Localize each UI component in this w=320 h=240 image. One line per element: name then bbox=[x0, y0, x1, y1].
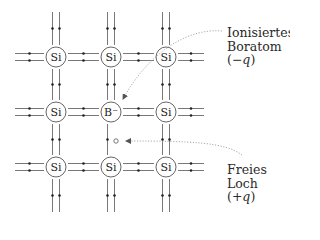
hole-annotation-line1: Freies bbox=[227, 163, 267, 177]
hole-charge: (+q) bbox=[227, 190, 267, 204]
hole-annotation: Freies Loch (+q) bbox=[227, 163, 267, 204]
electron-dot bbox=[51, 138, 54, 141]
boron-annotation-line1: Ionisiertes bbox=[227, 26, 290, 40]
electron-dot bbox=[58, 138, 61, 141]
silicon-atom: Si bbox=[156, 157, 176, 177]
electron-dot bbox=[137, 114, 140, 117]
hole-annotation-line2: Loch bbox=[227, 177, 267, 191]
electron-dot bbox=[137, 169, 140, 172]
atom-label: Si bbox=[105, 161, 117, 174]
electron-dot bbox=[190, 162, 193, 165]
electron-dot bbox=[168, 138, 171, 141]
electron-dot bbox=[28, 59, 31, 62]
electron-dot bbox=[82, 169, 85, 172]
silicon-atom: Si bbox=[46, 47, 66, 67]
electron-dot bbox=[82, 52, 85, 55]
electron-dot bbox=[28, 169, 31, 172]
electron-dot bbox=[161, 83, 164, 86]
electron-dot bbox=[28, 52, 31, 55]
electron-dot bbox=[58, 27, 61, 30]
atom-label: B⁻ bbox=[104, 106, 118, 119]
silicon-atom: Si bbox=[101, 157, 121, 177]
atom-label: Si bbox=[160, 161, 172, 174]
electron-dot bbox=[51, 27, 54, 30]
electron-dot bbox=[106, 83, 109, 86]
boron-atom: B⁻ bbox=[101, 102, 121, 122]
electron-dot bbox=[168, 27, 171, 30]
atom-label: Si bbox=[50, 161, 62, 174]
electron-dot bbox=[190, 59, 193, 62]
atom-label: Si bbox=[105, 51, 117, 64]
electron-dot bbox=[82, 114, 85, 117]
electron-dot bbox=[106, 27, 109, 30]
electron-dot bbox=[190, 114, 193, 117]
electron-dot bbox=[190, 107, 193, 110]
atom-label: Si bbox=[160, 106, 172, 119]
electron-dot bbox=[28, 114, 31, 117]
atoms: SiSiSiSiB⁻SiSiSiSi bbox=[46, 47, 176, 177]
electron-dot bbox=[168, 83, 171, 86]
electron-dot bbox=[168, 194, 171, 197]
electron-dot bbox=[82, 107, 85, 110]
silicon-atom: Si bbox=[46, 157, 66, 177]
electron-dot bbox=[106, 138, 109, 141]
electron-dot bbox=[106, 194, 109, 197]
electron-dot bbox=[82, 59, 85, 62]
electron-dot bbox=[161, 27, 164, 30]
electron-dot bbox=[51, 194, 54, 197]
silicon-atom: Si bbox=[156, 47, 176, 67]
electron-dot bbox=[190, 169, 193, 172]
electron-dot bbox=[137, 59, 140, 62]
electron-dot bbox=[113, 27, 116, 30]
electron-dot bbox=[82, 162, 85, 165]
electron-dot bbox=[28, 162, 31, 165]
electron-dot bbox=[137, 52, 140, 55]
electron-dot bbox=[161, 138, 164, 141]
hole-annotation-arrow bbox=[126, 141, 242, 155]
electron-dot bbox=[51, 83, 54, 86]
electron-dot bbox=[58, 83, 61, 86]
silicon-atom: Si bbox=[101, 47, 121, 67]
electron-dot bbox=[137, 107, 140, 110]
electron-dot bbox=[113, 83, 116, 86]
electron-dot bbox=[190, 52, 193, 55]
boron-annotation: Ionisiertes Boratom (−q) bbox=[227, 26, 290, 67]
electron-dot bbox=[28, 107, 31, 110]
silicon-atom: Si bbox=[46, 102, 66, 122]
electron-dot bbox=[58, 194, 61, 197]
free-hole-icon bbox=[114, 139, 118, 143]
boron-annotation-line2: Boratom bbox=[227, 40, 290, 54]
atom-label: Si bbox=[50, 51, 62, 64]
boron-charge: (−q) bbox=[227, 53, 290, 67]
electron-dot bbox=[161, 194, 164, 197]
electron-dot bbox=[137, 162, 140, 165]
annotation-arrows bbox=[114, 31, 242, 155]
atom-label: Si bbox=[160, 51, 172, 64]
silicon-atom: Si bbox=[156, 102, 176, 122]
atom-label: Si bbox=[50, 106, 62, 119]
electron-dot bbox=[113, 194, 116, 197]
